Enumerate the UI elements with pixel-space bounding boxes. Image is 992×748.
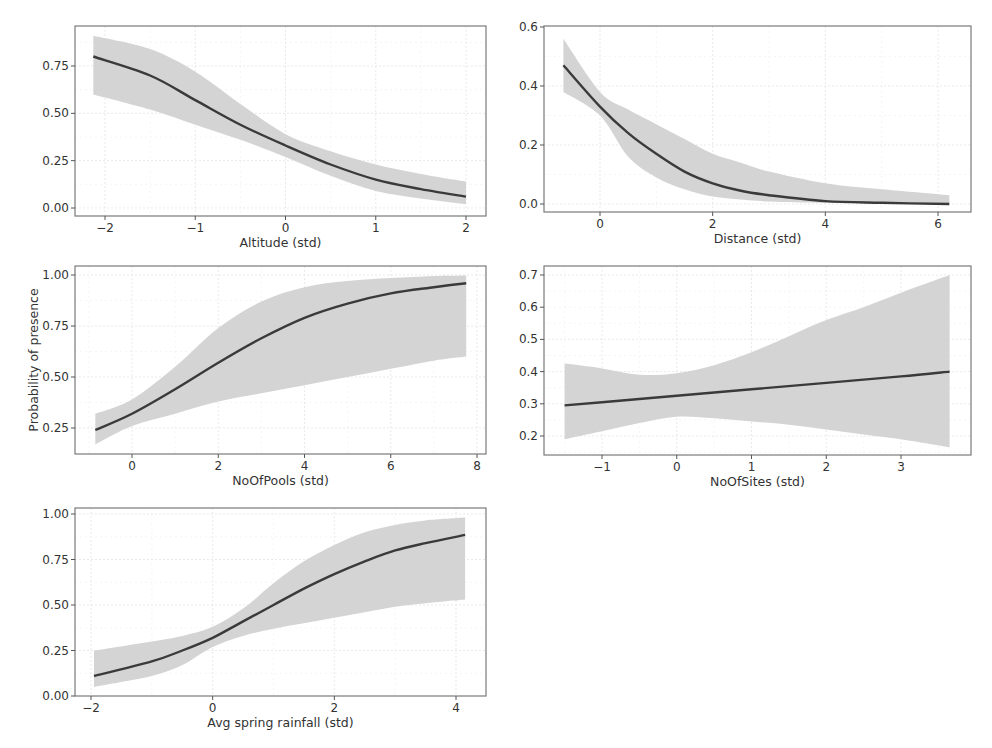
x-tick-label: 1 [748,460,756,474]
x-tick-label: 2 [214,459,222,473]
y-tick-label: 0.00 [42,201,69,215]
x-tick-label: 3 [897,460,905,474]
panel-noofpools: 024680.250.500.751.00NoOfPools (std) [42,266,486,488]
x-axis-title: Avg spring rainfall (std) [207,715,353,730]
x-tick-label: 0 [673,460,681,474]
panel-altitude: −2−10120.000.250.500.75Altitude (std) [42,26,486,250]
x-tick-label: 8 [473,459,481,473]
y-tick-label: 0.4 [519,79,538,93]
x-tick-label: 0 [282,221,290,235]
x-axis-title: Altitude (std) [240,235,322,250]
x-axis: −10123 [593,455,905,474]
y-tick-label: 0.75 [42,319,69,333]
y-tick-label: 0.25 [42,421,69,435]
partial-dependence-figure: −2−10120.000.250.500.75Altitude (std) 02… [0,0,992,748]
y-tick-label: 0.6 [519,300,538,314]
x-tick-label: 2 [331,701,339,715]
x-tick-label: −2 [82,701,100,715]
x-axis-title: NoOfSites (std) [710,474,805,489]
x-tick-label: 0 [596,217,604,231]
x-tick-label: 2 [709,217,717,231]
x-tick-label: −1 [186,221,204,235]
y-axis: 0.250.500.751.00 [42,268,75,435]
y-tick-label: 0.2 [519,138,538,152]
y-axis: 0.20.30.40.50.60.7 [519,268,544,443]
y-tick-label: 0.6 [519,20,538,34]
y-tick-label: 0.75 [42,59,69,73]
y-tick-label: 0.50 [42,106,69,120]
x-tick-label: 1 [372,221,380,235]
x-axis: 0246 [596,212,942,231]
panel-noofsites: −101230.20.30.40.50.60.7NoOfSites (std) [519,266,971,489]
y-tick-label: 1.00 [42,507,69,521]
x-axis: −2−1012 [96,216,470,235]
x-tick-label: 6 [387,459,395,473]
panel-avg-spring-rainfall: −20240.000.250.500.751.00Avg spring rain… [42,507,486,730]
x-axis-title: NoOfPools (std) [232,473,329,488]
y-tick-label: 0.25 [42,644,69,658]
shared-y-axis-title: Probability of presence [26,288,41,432]
x-axis-title: Distance (std) [714,231,802,246]
x-tick-label: −1 [593,460,611,474]
x-axis: −2024 [82,696,460,715]
y-tick-label: 0.00 [42,689,69,703]
x-tick-label: 0 [128,459,136,473]
x-tick-label: 4 [452,701,460,715]
x-axis: 02468 [128,454,481,473]
y-tick-label: 0.75 [42,553,69,567]
y-tick-label: 0.0 [519,197,538,211]
y-tick-label: 0.50 [42,370,69,384]
y-axis: 0.00.20.40.6 [519,20,544,211]
y-tick-label: 0.7 [519,268,538,282]
y-tick-label: 0.50 [42,598,69,612]
y-tick-label: 0.5 [519,332,538,346]
y-tick-label: 0.25 [42,154,69,168]
y-tick-label: 0.3 [519,397,538,411]
y-tick-label: 0.2 [519,429,538,443]
panel-distance: 02460.00.20.40.6Distance (std) [519,20,971,246]
x-tick-label: 6 [934,217,942,231]
y-tick-label: 1.00 [42,268,69,282]
y-axis: 0.000.250.500.75 [42,59,75,215]
x-tick-label: 4 [822,217,830,231]
x-tick-label: 0 [209,701,217,715]
x-tick-label: 2 [462,221,470,235]
x-tick-label: 2 [822,460,830,474]
y-tick-label: 0.4 [519,365,538,379]
x-tick-label: 4 [301,459,309,473]
x-tick-label: −2 [96,221,114,235]
y-axis: 0.000.250.500.751.00 [42,507,75,703]
